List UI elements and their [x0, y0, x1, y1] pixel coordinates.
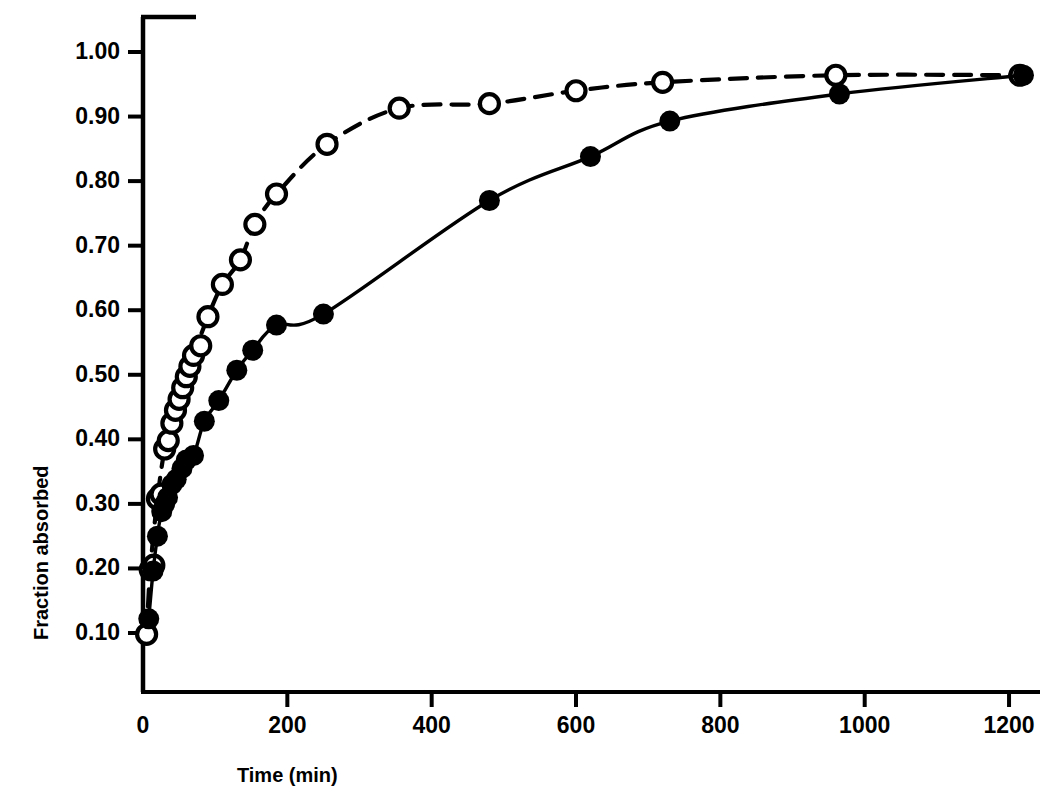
data-point-open [480, 94, 499, 113]
data-point-open [267, 185, 286, 204]
data-point-filled [266, 315, 287, 336]
y-axis-title: Fraction absorbed [30, 466, 53, 640]
data-point-open [318, 135, 337, 154]
axes-group [128, 17, 1040, 707]
y-tick-label: 0.80 [34, 167, 120, 194]
y-tick-label: 0.40 [34, 425, 120, 452]
data-point-filled [829, 83, 850, 104]
data-series-group [137, 65, 1034, 644]
x-tick-label: 200 [227, 712, 347, 739]
data-point-filled [580, 146, 601, 167]
x-tick-label: 800 [660, 712, 780, 739]
data-point-open [390, 99, 409, 118]
data-point-open [826, 66, 845, 85]
data-point-filled [479, 190, 500, 211]
data-point-open [567, 81, 586, 100]
data-point-open [653, 73, 672, 92]
data-point-filled [1013, 65, 1034, 86]
data-point-open [191, 336, 210, 355]
x-tick-label: 400 [372, 712, 492, 739]
data-point-filled [313, 304, 334, 325]
x-tick-label: 1200 [949, 712, 1054, 739]
data-point-filled [242, 340, 263, 361]
x-tick-label: 600 [516, 712, 636, 739]
data-point-filled [143, 561, 164, 582]
data-point-open [231, 250, 250, 269]
x-axis-title: Time (min) [207, 764, 367, 787]
data-point-open [213, 275, 232, 294]
plot-canvas [0, 0, 1054, 802]
data-point-filled [659, 111, 680, 132]
y-tick-label: 0.60 [34, 296, 120, 323]
x-tick-label: 0 [83, 712, 203, 739]
chart-figure: 0.100.200.300.400.500.600.700.800.901.00… [0, 0, 1054, 802]
y-tick-label: 0.70 [34, 232, 120, 259]
y-tick-label: 0.90 [34, 103, 120, 130]
data-point-open [198, 307, 217, 326]
y-tick-label: 0.50 [34, 361, 120, 388]
data-point-filled [147, 526, 168, 547]
y-tick-label: 1.00 [34, 38, 120, 65]
data-point-filled [138, 608, 159, 629]
data-point-open [245, 215, 264, 234]
x-tick-label: 1000 [805, 712, 925, 739]
data-point-filled [183, 445, 204, 466]
data-point-filled [226, 360, 247, 381]
data-point-filled [194, 411, 215, 432]
data-point-filled [208, 390, 229, 411]
series-filled-circles [138, 65, 1034, 630]
